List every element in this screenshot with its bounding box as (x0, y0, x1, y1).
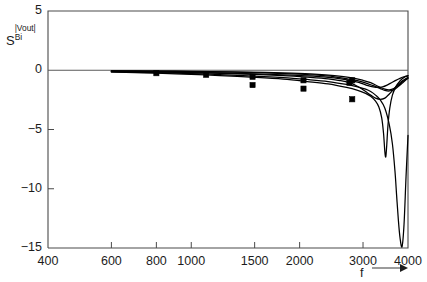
y-tick-label: 0 (0, 62, 42, 76)
data-point-marker (301, 86, 306, 91)
x-tick-label: 400 (18, 254, 78, 268)
y-tick-label: −10 (0, 181, 42, 195)
y-tick-label: −5 (0, 122, 42, 136)
x-tick-label: 2000 (270, 254, 330, 268)
data-point-marker (204, 72, 209, 77)
plot-frame (48, 11, 408, 248)
curve-curve-2 (111, 72, 408, 248)
curve-curve-1 (111, 72, 408, 157)
y-tick-label: −15 (0, 240, 42, 254)
y-axis-label-subscript: Bi (15, 33, 36, 41)
data-point-marker (350, 97, 355, 102)
y-axis-label-symbol: S (6, 33, 15, 48)
x-axis-ticks (111, 242, 363, 248)
data-point-marker (154, 71, 159, 76)
data-point-marker (350, 78, 355, 83)
y-axis-label-superscript: |Vout| (15, 24, 36, 32)
data-point-marker (250, 74, 255, 79)
data-curves (111, 71, 408, 247)
x-tick-label: 4000 (378, 254, 427, 268)
data-point-marker (301, 78, 306, 83)
data-point-marker (250, 82, 255, 87)
x-tick-label: 1000 (161, 254, 221, 268)
x-axis-label-symbol: f (360, 266, 363, 280)
y-axis-ticks (48, 130, 54, 189)
y-axis-label: S |Vout| Bi (6, 30, 36, 48)
x-axis-label: f (360, 263, 363, 281)
y-tick-label: 5 (0, 3, 42, 17)
